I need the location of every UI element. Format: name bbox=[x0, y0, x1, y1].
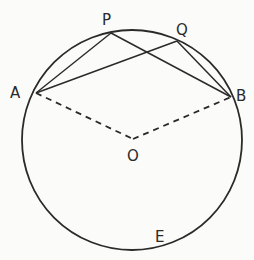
label-A: A bbox=[10, 84, 21, 102]
label-O: O bbox=[127, 147, 139, 165]
radius-OB-dashed bbox=[133, 97, 231, 139]
geometry-diagram: A P Q B O E bbox=[0, 0, 254, 260]
circle bbox=[22, 30, 242, 250]
radius-OA-dashed bbox=[36, 93, 133, 139]
label-P: P bbox=[102, 11, 111, 29]
chord-QB bbox=[177, 41, 231, 97]
chord-AQ bbox=[36, 41, 177, 93]
chord-AP bbox=[36, 33, 111, 93]
label-B: B bbox=[236, 87, 246, 105]
label-E: E bbox=[155, 228, 164, 246]
label-Q: Q bbox=[176, 21, 188, 39]
